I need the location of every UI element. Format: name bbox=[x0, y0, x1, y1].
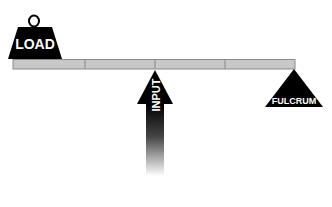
lever-diagram: LOAD INPUT FULCRUM bbox=[0, 0, 332, 207]
fulcrum: FULCRUM bbox=[265, 69, 323, 107]
fulcrum-label: FULCRUM bbox=[272, 96, 317, 106]
load-weight: LOAD bbox=[8, 16, 62, 60]
weight-handle-icon bbox=[29, 16, 39, 27]
lever-beam bbox=[13, 60, 295, 70]
load-label: LOAD bbox=[15, 36, 55, 52]
input-label: INPUT bbox=[150, 78, 162, 111]
input-arrow: INPUT bbox=[137, 70, 173, 176]
